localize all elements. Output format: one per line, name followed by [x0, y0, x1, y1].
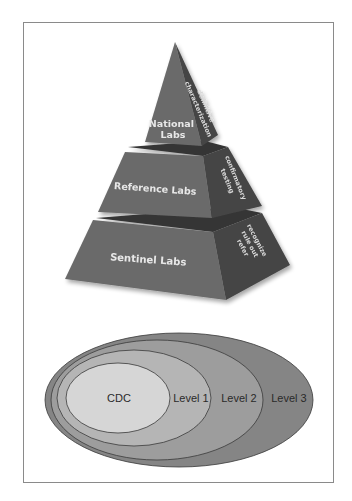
diagram-canvas: Sentinel Labs recognize rule out refer R… — [0, 0, 352, 501]
pyramid-tier-national: National Labs definitive characterizatio… — [145, 42, 221, 146]
lab-pyramid: Sentinel Labs recognize rule out refer R… — [65, 42, 290, 300]
nested-levels-diagram: CDC Level 1 Level 2 Level 3 — [45, 333, 313, 467]
label-level-1: Level 1 — [173, 392, 208, 404]
pyramid-tier-reference: Reference Labs confirmatory testing — [98, 141, 262, 218]
pyramid-tier-sentinel: Sentinel Labs recognize rule out refer — [65, 207, 290, 300]
label-cdc: CDC — [107, 392, 131, 404]
label-level-2: Level 2 — [221, 392, 256, 404]
label-level-3: Level 3 — [271, 392, 306, 404]
